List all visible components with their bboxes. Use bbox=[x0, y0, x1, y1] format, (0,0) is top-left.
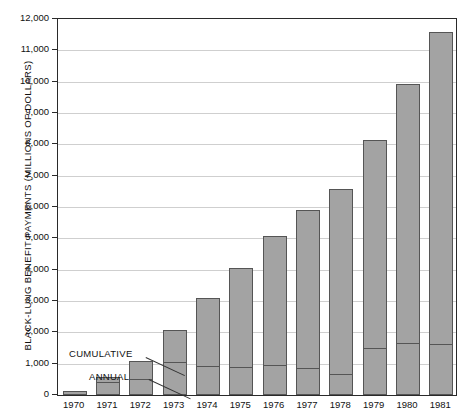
bar-group bbox=[263, 236, 287, 395]
bar-group bbox=[63, 391, 87, 395]
y-tick-mark bbox=[52, 112, 57, 113]
bar-series bbox=[58, 19, 456, 395]
bar-group bbox=[163, 330, 187, 395]
bar-annual bbox=[329, 374, 353, 395]
annotation-annual: ANNUAL bbox=[89, 371, 129, 382]
bar-annual bbox=[96, 382, 120, 395]
bar-cumulative bbox=[429, 32, 453, 395]
y-tick-label: 6,000 bbox=[0, 200, 49, 211]
bar-cumulative bbox=[329, 189, 353, 395]
bar-group bbox=[229, 268, 253, 395]
bar-annual bbox=[229, 367, 253, 395]
y-tick-label: 5,000 bbox=[0, 231, 49, 242]
y-tick-mark bbox=[52, 237, 57, 238]
y-tick-mark bbox=[52, 18, 57, 19]
y-tick-label: 8,000 bbox=[0, 137, 49, 148]
bar-annual bbox=[129, 379, 153, 395]
bar-group bbox=[329, 189, 353, 395]
y-tick-label: 1,000 bbox=[0, 357, 49, 368]
plot-area: CUMULATIVE ANNUAL bbox=[57, 18, 457, 396]
y-tick-mark bbox=[52, 269, 57, 270]
bar-annual bbox=[396, 343, 420, 395]
y-tick-label: 12,000 bbox=[0, 12, 49, 23]
bar-group bbox=[363, 140, 387, 395]
y-tick-mark bbox=[52, 300, 57, 301]
bar-annual bbox=[63, 391, 87, 395]
bar-group bbox=[396, 84, 420, 395]
y-tick-label: 3,000 bbox=[0, 294, 49, 305]
chart-root: BLACK-LUNG BENEFIT PAYMENTS (MILLIONS OF… bbox=[0, 0, 473, 420]
y-tick-label: 4,000 bbox=[0, 263, 49, 274]
y-tick-label: 0 bbox=[0, 388, 49, 399]
y-tick-label: 7,000 bbox=[0, 169, 49, 180]
bar-group bbox=[429, 32, 453, 395]
bar-group bbox=[296, 210, 320, 395]
bar-group bbox=[129, 361, 153, 395]
y-tick-label: 10,000 bbox=[0, 75, 49, 86]
y-tick-mark bbox=[52, 331, 57, 332]
y-tick-mark bbox=[52, 143, 57, 144]
y-tick-mark bbox=[52, 81, 57, 82]
y-tick-label: 2,000 bbox=[0, 325, 49, 336]
y-tick-mark bbox=[52, 175, 57, 176]
bar-group bbox=[196, 298, 220, 395]
y-tick-label: 11,000 bbox=[0, 43, 49, 54]
annotation-cumulative: CUMULATIVE bbox=[69, 348, 133, 359]
y-tick-mark bbox=[52, 206, 57, 207]
bar-annual bbox=[363, 348, 387, 395]
bar-annual bbox=[296, 368, 320, 395]
x-tick-label: 1981 bbox=[420, 399, 460, 410]
bar-annual bbox=[196, 366, 220, 395]
bar-annual bbox=[263, 365, 287, 395]
bar-annual bbox=[429, 344, 453, 395]
y-tick-mark bbox=[52, 363, 57, 364]
y-tick-label: 9,000 bbox=[0, 106, 49, 117]
y-tick-mark bbox=[52, 394, 57, 395]
y-tick-mark bbox=[52, 49, 57, 50]
